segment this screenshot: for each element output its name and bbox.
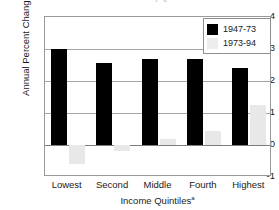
chart-title: Income Growth by Quintile: [0, 0, 279, 2]
x-axis-tick-label-fourth: Fourth: [180, 179, 225, 190]
legend-swatch-icon: [207, 24, 218, 35]
x-axis-title-text: Income Quintiles: [120, 195, 191, 206]
bar-middle-1947-73: [142, 59, 158, 145]
y-axis-title: Annual Percent Change: [20, 0, 31, 126]
bar-middle-1973-94: [160, 139, 176, 145]
x-axis-tick-label-highest: Highest: [226, 179, 271, 190]
bar-highest-1973-94: [250, 105, 266, 145]
legend: 1947-731973-94: [203, 18, 271, 54]
x-axis-tick-label-second: Second: [89, 179, 134, 190]
x-axis-tick-label-lowest: Lowest: [44, 179, 89, 190]
legend-swatch-icon: [207, 38, 218, 49]
x-axis-tick-label-middle: Middle: [135, 179, 180, 190]
legend-label: 1973-94: [223, 39, 256, 48]
bar-lowest-1947-73: [51, 49, 67, 145]
bar-lowest-1973-94: [69, 145, 85, 164]
bar-second-1973-94: [114, 145, 130, 151]
bar-fourth-1947-73: [187, 59, 203, 145]
legend-label: 1947-73: [223, 25, 256, 34]
x-axis-title-footnote-marker: a: [191, 195, 194, 201]
legend-item-1947-73: 1947-73: [207, 22, 266, 36]
bar-fourth-1973-94: [205, 131, 221, 145]
bar-second-1947-73: [96, 63, 112, 145]
bar-highest-1947-73: [232, 68, 248, 145]
x-axis-title: Income Quintilesa: [44, 195, 271, 206]
legend-item-1973-94: 1973-94: [207, 36, 266, 50]
